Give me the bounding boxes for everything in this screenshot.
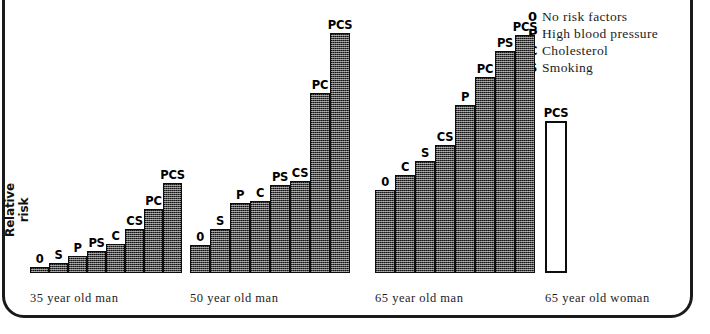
bar-rect[interactable] (395, 175, 415, 273)
bar-value-label: PCS (544, 107, 568, 119)
bar-item[interactable]: PCS (515, 23, 535, 273)
bar-item[interactable]: PS (270, 23, 290, 273)
bar-item[interactable]: PCS (330, 23, 350, 273)
bar-item[interactable]: CS (435, 23, 455, 273)
bar-item[interactable]: CS (290, 23, 310, 273)
bar-value-label: CS (437, 131, 453, 143)
y-axis-label: Relative risk (3, 169, 31, 251)
bar-item[interactable]: C (250, 23, 270, 273)
bar-item[interactable]: P (455, 23, 475, 273)
bar-item[interactable]: C (395, 23, 415, 273)
bar-group-bars: 0SPCPSCSPCPCS (190, 23, 350, 273)
bar-value-label: S (216, 215, 224, 227)
bar-rect[interactable] (515, 35, 535, 273)
bar-rect[interactable] (106, 244, 125, 273)
plot-area: Relative risk 0SPPSCCSPCPCS35 year old m… (0, 0, 710, 334)
bar-item[interactable]: 0 (375, 23, 395, 273)
bar-item[interactable]: PC (144, 23, 163, 273)
bar-value-label: PC (312, 79, 328, 91)
bar-item[interactable]: PCS (163, 23, 182, 273)
bar-value-label: PCS (160, 169, 184, 181)
x-axis-group-label: 65 year old woman (545, 291, 650, 306)
bar-item[interactable]: S (49, 23, 68, 273)
bar-rect[interactable] (210, 229, 230, 273)
bar-item[interactable]: PCS (545, 23, 567, 273)
bar-group-bars: 0SPPSCCSPCPCS (30, 23, 182, 273)
bar-value-label: PS (88, 237, 104, 249)
bar-value-label: PC (145, 195, 161, 207)
bar-item[interactable]: S (210, 23, 230, 273)
x-axis-group-label: 65 year old man (375, 291, 463, 306)
bar-rect[interactable] (375, 190, 395, 273)
bar-rect[interactable] (230, 203, 250, 273)
bar-value-label: P (236, 189, 244, 201)
x-axis-group-label: 35 year old man (30, 291, 118, 306)
bar-item[interactable]: 0 (190, 23, 210, 273)
bar-item[interactable]: CS (125, 23, 144, 273)
bar-rect[interactable] (68, 256, 87, 273)
bar-rect[interactable] (310, 93, 330, 273)
bar-value-label: PCS (328, 19, 352, 31)
bar-value-label: 0 (36, 253, 44, 265)
bar-rect[interactable] (30, 267, 49, 273)
bar-value-label: C (401, 161, 409, 173)
bar-rect[interactable] (87, 251, 106, 273)
bar-item[interactable]: P (230, 23, 250, 273)
bar-item[interactable]: C (106, 23, 125, 273)
bar-item[interactable]: PC (475, 23, 495, 273)
bar-item[interactable]: P (68, 23, 87, 273)
bar-value-label: CS (292, 167, 308, 179)
bar-rect[interactable] (49, 263, 68, 273)
bar-value-label: PS (497, 37, 513, 49)
bar-value-label: 0 (196, 231, 204, 243)
bar-rect[interactable] (545, 121, 567, 273)
bar-value-label: P (73, 242, 81, 254)
bar-value-label: C (111, 230, 119, 242)
bar-rect[interactable] (455, 105, 475, 273)
bar-rect[interactable] (435, 145, 455, 273)
bar-item[interactable]: PS (87, 23, 106, 273)
bar-value-label: 0 (381, 176, 389, 188)
bar-rect[interactable] (415, 161, 435, 273)
bar-item[interactable]: PC (310, 23, 330, 273)
bar-rect[interactable] (290, 181, 310, 273)
bar-rect[interactable] (250, 201, 270, 273)
bar-value-label: PC (477, 63, 493, 75)
bar-rect[interactable] (495, 51, 515, 273)
bar-value-label: PCS (513, 21, 537, 33)
bar-rect[interactable] (330, 33, 350, 273)
bar-value-label: S (55, 249, 63, 261)
bar-value-label: C (256, 187, 264, 199)
bar-rect[interactable] (190, 245, 210, 273)
x-axis-group-label: 50 year old man (190, 291, 278, 306)
figure-root: 0 No risk factors P High blood pressure … (0, 0, 710, 334)
bar-rect[interactable] (475, 77, 495, 273)
bar-rect[interactable] (144, 209, 163, 273)
bar-item[interactable]: PS (495, 23, 515, 273)
bar-rect[interactable] (270, 185, 290, 273)
bar-item[interactable]: 0 (30, 23, 49, 273)
bar-group-bars: 0CSCSPPCPSPCS (375, 23, 535, 273)
bar-value-label: P (461, 91, 469, 103)
bar-value-label: PS (272, 171, 288, 183)
bar-rect[interactable] (163, 183, 182, 273)
bar-value-label: CS (126, 215, 142, 227)
bar-item[interactable]: S (415, 23, 435, 273)
bar-rect[interactable] (125, 229, 144, 273)
bar-value-label: S (421, 147, 429, 159)
bar-group-bars: PCS (545, 23, 567, 273)
